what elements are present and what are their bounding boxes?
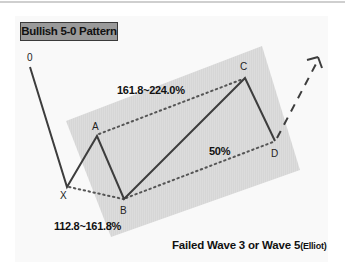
caption-main: Failed Wave 3 or Wave 5 <box>172 239 300 251</box>
caption: Failed Wave 3 or Wave 5(Elliot) <box>172 239 327 251</box>
arrowhead-icon <box>307 57 318 60</box>
point-label-b: B <box>120 205 127 216</box>
pattern-diagram: 0 X A B C D 161.8~224.0% 50% 112.8~161.8… <box>0 0 345 278</box>
ratio-label-bd: 50% <box>209 145 231 157</box>
ratio-label-xb: 112.8~161.8% <box>54 220 122 232</box>
pattern-zone <box>66 46 300 237</box>
point-label-x: X <box>60 190 67 201</box>
ratio-label-ac: 161.8~224.0% <box>117 84 185 96</box>
point-label-d: D <box>271 148 278 159</box>
point-label-a: A <box>92 121 99 132</box>
caption-suffix: (Elliot) <box>300 241 326 251</box>
pattern-title: Bullish 5-0 Pattern <box>20 22 118 41</box>
point-label-o: 0 <box>27 52 33 63</box>
point-label-c: C <box>240 61 247 72</box>
